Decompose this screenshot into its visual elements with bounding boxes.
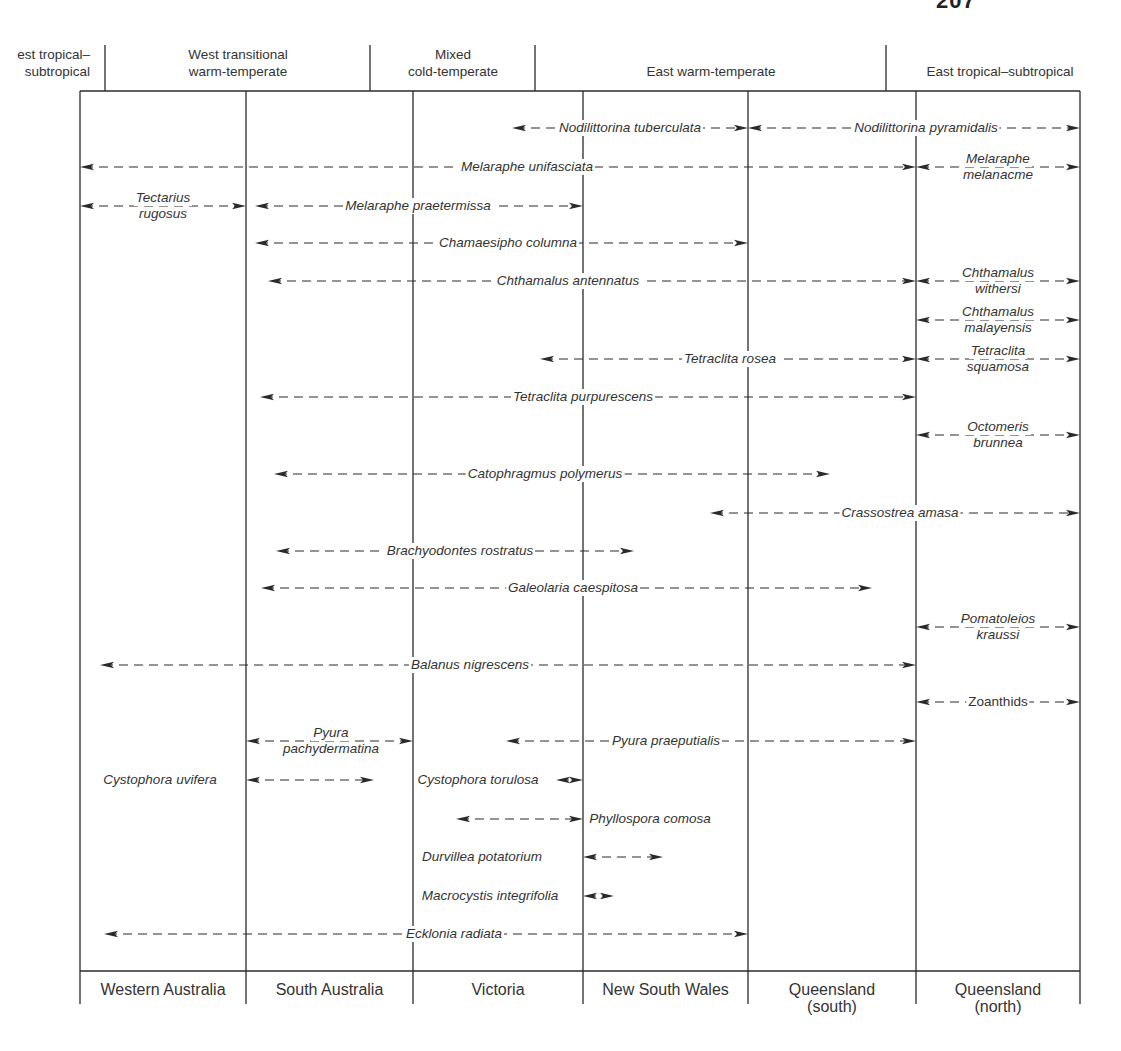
species-label: Pomatoleioskraussi bbox=[948, 611, 1048, 643]
species-label-epithet: withersi bbox=[948, 281, 1048, 297]
state-column-label: Victoria bbox=[413, 981, 583, 998]
arrowhead-right-icon bbox=[1066, 624, 1080, 630]
species-label-genus: Tetraclita bbox=[969, 343, 1027, 359]
species-label-epithet: kraussi bbox=[948, 627, 1048, 643]
species-label: Galeolaria caespitosa bbox=[506, 580, 640, 596]
state-label-line1: Western Australia bbox=[80, 981, 246, 998]
state-column-label: Queensland(south) bbox=[748, 981, 916, 1015]
species-label: Nodilittorina tuberculata bbox=[557, 120, 703, 136]
species-label: Zoanthids bbox=[966, 694, 1029, 710]
species-label-genus: Pyura bbox=[311, 725, 350, 741]
species-label: Cystophora uvifera bbox=[101, 772, 218, 788]
state-label-line1: Victoria bbox=[413, 981, 583, 998]
species-label-genus: Tectarius bbox=[134, 190, 192, 206]
state-column-label: South Australia bbox=[246, 981, 413, 998]
zone-label: est tropical–subtropical bbox=[0, 46, 90, 80]
state-label-line1: South Australia bbox=[246, 981, 413, 998]
species-label-genus: Chthamalus bbox=[960, 304, 1036, 320]
species-label: Ecklonia radiata bbox=[404, 926, 504, 942]
arrowhead-right-icon bbox=[1066, 699, 1080, 705]
state-column-label: Western Australia bbox=[80, 981, 246, 998]
arrowhead-right-icon bbox=[569, 203, 583, 209]
arrowhead-right-icon bbox=[1066, 164, 1080, 170]
species-label-epithet: rugosus bbox=[113, 206, 213, 222]
zone-label-line1: West transitional bbox=[148, 46, 328, 63]
zone-label-line1: est tropical– bbox=[0, 46, 90, 63]
zone-label-line2: warm-temperate bbox=[148, 63, 328, 80]
arrowhead-right-icon bbox=[1066, 317, 1080, 323]
species-label: Melaraphemelanacme bbox=[948, 151, 1048, 183]
species-label: Nodilittorina pyramidalis bbox=[852, 120, 999, 136]
state-label-line1: Queensland bbox=[916, 981, 1080, 998]
species-label: Pyura praeputialis bbox=[610, 733, 722, 749]
arrowhead-right-icon bbox=[1066, 356, 1080, 362]
state-label-line1: Queensland bbox=[748, 981, 916, 998]
species-label: Phyllospora comosa bbox=[587, 811, 713, 827]
species-label-epithet: melanacme bbox=[948, 167, 1048, 183]
zone-label-line1: Mixed bbox=[363, 46, 543, 63]
species-label-genus: Chthamalus bbox=[960, 265, 1036, 281]
arrowhead-right-icon bbox=[902, 394, 916, 400]
species-label-genus: Melaraphe bbox=[964, 151, 1032, 167]
state-column-label: Queensland(north) bbox=[916, 981, 1080, 1015]
arrowhead-right-icon bbox=[569, 777, 583, 783]
species-label: Durvillea potatorium bbox=[420, 849, 544, 865]
arrowhead-right-icon bbox=[1066, 278, 1080, 284]
species-label-genus: Pomatoleios bbox=[959, 611, 1037, 627]
species-label: Crassostrea amasa bbox=[839, 505, 960, 521]
species-label-epithet: malayensis bbox=[948, 320, 1048, 336]
species-label: Balanus nigrescens bbox=[409, 657, 531, 673]
zone-label: East warm-temperate bbox=[621, 63, 801, 80]
arrowhead-right-icon bbox=[620, 548, 634, 554]
species-label: Tetraclita purpurescens bbox=[511, 389, 655, 405]
zone-label-line2: East tropical–subtropical bbox=[910, 63, 1090, 80]
biogeography-figure: 207 est tropical–subtropicalWest transit… bbox=[0, 0, 1121, 1051]
state-label-line1: New South Wales bbox=[583, 981, 748, 998]
zone-label-line2: East warm-temperate bbox=[621, 63, 801, 80]
state-label-line2: (north) bbox=[916, 998, 1080, 1015]
zone-label: West transitionalwarm-temperate bbox=[148, 46, 328, 80]
state-column-label: New South Wales bbox=[583, 981, 748, 998]
arrowhead-right-icon bbox=[734, 125, 748, 131]
species-label: Cystophora torulosa bbox=[416, 772, 541, 788]
zone-label: East tropical–subtropical bbox=[910, 63, 1090, 80]
species-label: Chthamalus antennatus bbox=[495, 273, 642, 289]
species-label: Melaraphe praetermissa bbox=[343, 198, 493, 214]
species-label: Tectariusrugosus bbox=[113, 190, 213, 222]
arrowhead-right-icon bbox=[1066, 510, 1080, 516]
state-label-line2: (south) bbox=[748, 998, 916, 1015]
zone-label-line2: cold-temperate bbox=[363, 63, 543, 80]
species-label: Chthamaluswithersi bbox=[948, 265, 1048, 297]
arrowhead-right-icon bbox=[902, 164, 916, 170]
species-label: Chamaesipho columna bbox=[437, 235, 579, 251]
species-label: Tetraclita rosea bbox=[682, 351, 778, 367]
species-label-epithet: squamosa bbox=[948, 359, 1048, 375]
species-label-genus: Octomeris bbox=[965, 419, 1031, 435]
arrowhead-right-icon bbox=[734, 240, 748, 246]
species-label: Tetraclitasquamosa bbox=[948, 343, 1048, 375]
species-label: Catophragmus polymerus bbox=[466, 466, 625, 482]
species-label-epithet: pachydermatina bbox=[281, 741, 381, 757]
species-label-epithet: brunnea bbox=[948, 435, 1048, 451]
arrowhead-right-icon bbox=[858, 585, 872, 591]
species-label: Melaraphe unifasciata bbox=[459, 159, 595, 175]
arrowhead-right-icon bbox=[734, 931, 748, 937]
species-label: Macrocystis integrifolia bbox=[420, 888, 561, 904]
species-label: Octomerisbrunnea bbox=[948, 419, 1048, 451]
zone-label-line2: subtropical bbox=[0, 63, 90, 80]
arrowhead-right-icon bbox=[1066, 432, 1080, 438]
zone-label: Mixedcold-temperate bbox=[363, 46, 543, 80]
species-label: Pyurapachydermatina bbox=[281, 725, 381, 757]
species-label: Chthamalusmalayensis bbox=[948, 304, 1048, 336]
species-label: Brachyodontes rostratus bbox=[385, 543, 535, 559]
